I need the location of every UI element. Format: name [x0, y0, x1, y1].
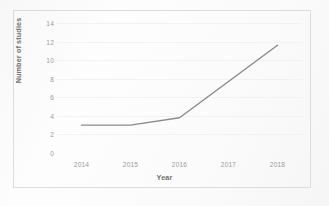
x-tick-label: 2017: [221, 161, 236, 168]
y-tick-label: 10: [46, 57, 54, 64]
y-tick-label: 4: [50, 112, 54, 119]
x-axis-tick-labels: 20142015201620172018: [0, 161, 329, 173]
series-polyline: [82, 45, 278, 125]
y-axis-tick-labels: 02468101214: [28, 15, 54, 161]
x-tick-label: 2016: [172, 161, 187, 168]
y-tick-label: 0: [50, 150, 54, 157]
chart-figure: Number of studies Year 02468101214 20142…: [0, 0, 329, 206]
y-tick-label: 8: [50, 75, 54, 82]
x-tick-label: 2014: [74, 161, 89, 168]
x-tick-label: 2018: [270, 161, 285, 168]
data-series-line: [57, 23, 302, 153]
x-axis-title: Year: [0, 173, 329, 182]
x-tick-label: 2015: [123, 161, 138, 168]
plot-area: [57, 23, 302, 153]
y-tick-label: 14: [46, 20, 54, 27]
y-tick-label: 6: [50, 94, 54, 101]
y-tick-label: 2: [50, 131, 54, 138]
y-tick-label: 12: [46, 38, 54, 45]
y-axis-title: Number of studies: [14, 3, 23, 99]
